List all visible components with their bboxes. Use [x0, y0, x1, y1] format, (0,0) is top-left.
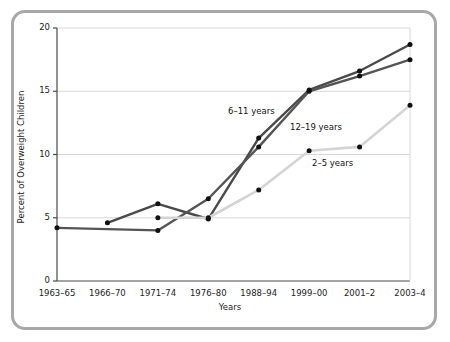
x-tick-label: 1966–70 [79, 288, 135, 298]
data-point [105, 220, 110, 225]
data-point [307, 148, 312, 153]
data-point [256, 136, 261, 141]
data-point [55, 225, 60, 230]
data-point [206, 215, 211, 220]
series-annotation: 2–5 years [312, 158, 353, 168]
x-tick-label: 2003–4 [382, 288, 438, 298]
x-tick-label: 1971–74 [130, 288, 186, 298]
series-annotation: 6–11 years [228, 106, 275, 116]
data-point [408, 42, 413, 47]
data-point [357, 144, 362, 149]
data-point [155, 228, 160, 233]
x-tick-label: 2001–2 [332, 288, 388, 298]
data-point [357, 74, 362, 79]
series-lines [57, 44, 410, 230]
x-tick-label: 1963–65 [29, 288, 85, 298]
data-point [307, 89, 312, 94]
y-axis-title: Percent of Overweight Children [16, 87, 26, 227]
series-annotation: 12–19 years [290, 122, 342, 132]
y-tick-label: 20 [28, 22, 50, 32]
x-tick-label: 1988–94 [231, 288, 287, 298]
y-tick-label: 0 [28, 275, 50, 285]
series-line-0 [107, 44, 410, 222]
data-point [256, 187, 261, 192]
y-tick-label: 15 [28, 85, 50, 95]
data-point [206, 196, 211, 201]
data-point [155, 201, 160, 206]
x-axis-title: Years [40, 302, 420, 312]
data-point [408, 57, 413, 62]
x-tick-label: 1999–00 [281, 288, 337, 298]
data-point [408, 103, 413, 108]
data-point [256, 144, 261, 149]
series-line-2 [158, 105, 410, 218]
data-point [155, 215, 160, 220]
x-tick-label: 1976–80 [180, 288, 236, 298]
gridlines [57, 28, 410, 218]
data-point [357, 69, 362, 74]
y-tick-label: 10 [28, 149, 50, 159]
y-tick-label: 5 [28, 212, 50, 222]
